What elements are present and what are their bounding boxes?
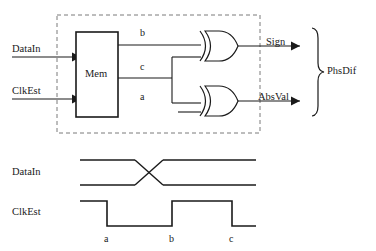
label-node-b: b (140, 28, 145, 38)
label-tick-c: c (229, 234, 233, 244)
arrowhead-sign (291, 42, 300, 51)
label-tick-b: b (169, 234, 174, 244)
arrowhead-absval (291, 97, 300, 106)
label-waveform-datain: DataIn (12, 167, 41, 178)
xor-gate-sign-body (205, 31, 238, 61)
phsdif-brace (312, 28, 324, 116)
waveform-clkest (80, 201, 256, 226)
label-input-clkest: ClkEst (12, 86, 41, 97)
figure-root: DataIn ClkEst Mem b c a Sign AbsVal PhsD… (0, 0, 376, 251)
label-input-datain: DataIn (12, 44, 41, 55)
label-output-sign: Sign (266, 37, 285, 48)
label-output-absval: AbsVal (258, 92, 289, 103)
diagram-canvas (0, 0, 376, 251)
label-node-c: c (140, 62, 144, 72)
label-phsdif-group: PhsDif (327, 66, 356, 77)
xor-gate-absval-body (205, 86, 238, 116)
label-waveform-clkest: ClkEst (12, 207, 41, 218)
label-node-a: a (140, 92, 144, 102)
label-tick-a: a (104, 234, 108, 244)
label-mem-block: Mem (85, 69, 107, 80)
